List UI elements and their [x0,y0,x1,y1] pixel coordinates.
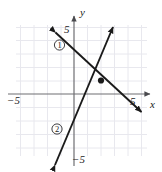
figure-background [0,0,162,172]
coordinate-plane-figure: −5 5 5 −5 x y 1 2 [0,0,162,172]
y-positive-tick-label: 5 [64,23,70,35]
y-negative-tick-label: −5 [72,153,85,165]
graph-svg: −5 5 5 −5 x y 1 2 [0,0,162,172]
line-2-label-text: 2 [55,124,59,134]
x-axis-label: x [149,98,155,110]
x-positive-tick-label: 5 [130,95,136,107]
y-axis-label: y [79,6,85,18]
line-1-label-text: 1 [57,40,61,50]
intersection-point [98,77,104,83]
x-negative-tick-label: −5 [7,94,20,106]
